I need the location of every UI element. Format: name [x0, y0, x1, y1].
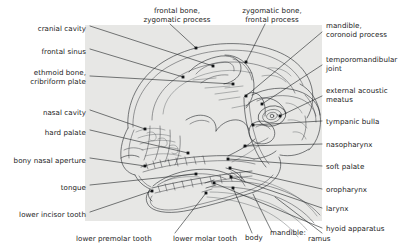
label-frontal-sinus: frontal sinus — [42, 47, 87, 56]
dot-larynx — [230, 176, 233, 179]
figure-canvas: cranial cavity frontal sinus ethmoid bon… — [0, 0, 410, 245]
dot-lower-molar-tooth — [232, 187, 235, 190]
label-external-acoustic-line2: meatus — [326, 95, 353, 104]
anatomical-figure: cranial cavity frontal sinus ethmoid bon… — [0, 0, 410, 245]
dot-hard-palate — [187, 152, 190, 155]
label-larynx: larynx — [326, 204, 348, 213]
dot-mandible-coronoid-process — [245, 95, 248, 98]
dot-oropharynx — [229, 167, 232, 170]
label-ramus: ramus — [308, 234, 331, 243]
label-bony-nasal-aperture: bony nasal aperture — [14, 156, 86, 165]
label-frontal-bone-line2: zygomatic process — [143, 15, 210, 24]
label-soft-palate: soft palate — [326, 162, 364, 171]
label-mandible-coronoid-line2: coronoid process — [326, 30, 387, 39]
label-hyoid-apparatus: hyoid apparatus — [326, 224, 385, 233]
dot-cranial-cavity — [212, 65, 215, 68]
label-cranial-cavity: cranial cavity — [38, 24, 86, 33]
label-tympanic-bulla: tympanic bulla — [326, 117, 379, 126]
label-oropharynx: oropharynx — [326, 185, 367, 194]
dot-soft-palate — [227, 158, 230, 161]
label-lower-premolar-tooth: lower premolar tooth — [76, 234, 152, 243]
dot-tympanic-bulla — [252, 124, 255, 127]
dot-nasal-cavity — [144, 128, 147, 131]
dot-bony-nasal-aperture — [144, 165, 147, 168]
dot-lower-premolar-tooth — [205, 192, 208, 195]
label-nasal-cavity: nasal cavity — [43, 108, 86, 117]
label-hard-palate: hard palate — [45, 128, 86, 137]
label-body: body — [245, 233, 263, 242]
label-nasopharynx: nasopharynx — [326, 140, 373, 149]
label-ethmoid-bone-line1: ethmoid bone, — [34, 68, 86, 77]
label-zygomatic-bone-line2: frontal process — [245, 15, 299, 24]
dot-lower-incisor-tooth — [151, 190, 154, 193]
label-temporomandibular-line1: temporomandibular — [326, 55, 397, 64]
label-mandible-coronoid-line1: mandible, — [326, 21, 362, 30]
dot-hyoid-apparatus — [213, 182, 216, 185]
dot-temporomandibular-joint — [261, 103, 264, 106]
label-ethmoid-bone-line2: cribriform plate — [30, 77, 86, 86]
label-tongue: tongue — [61, 183, 86, 192]
dot-nasopharynx — [244, 145, 247, 148]
label-lower-molar-tooth: lower molar tooth — [173, 234, 237, 243]
dot-external-acoustic-meatus — [279, 115, 282, 118]
dot-tongue — [195, 173, 198, 176]
dot-frontal-bone-zygomatic-process — [195, 47, 198, 50]
label-frontal-bone-line1: frontal bone, — [154, 6, 200, 15]
label-mandible: mandible: — [270, 228, 306, 237]
label-external-acoustic-line1: external acoustic — [326, 86, 388, 95]
label-lower-incisor-tooth: lower incisor tooth — [19, 210, 86, 219]
label-temporomandibular-line2: joint — [325, 64, 342, 73]
dot-ethmoid-bone — [232, 83, 235, 86]
dot-zygomatic-bone-frontal-process — [245, 61, 248, 64]
dot-frontal-sinus — [182, 76, 185, 79]
label-zygomatic-bone-line1: zygomatic bone, — [242, 6, 302, 15]
